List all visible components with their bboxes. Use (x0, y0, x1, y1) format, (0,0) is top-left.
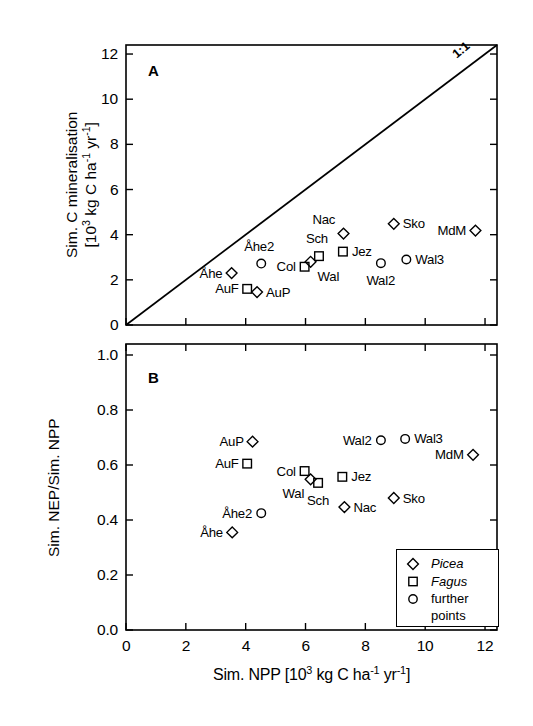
datapoint-label-a-0: Åhe (200, 266, 223, 281)
datapoint-marker-circle-a-11 (402, 255, 411, 264)
y-axis-title-panel-a: Sim. C mineralisation[103 kg C ha-1 yr-1… (63, 112, 101, 258)
datapoint-label-a-12: MdM (437, 223, 466, 238)
legend-marker-diamond (408, 559, 419, 570)
panel-b-letter: B (148, 369, 159, 386)
datapoint-marker-square-b-4 (300, 467, 309, 476)
y-ticklabel-panel-a: 4 (110, 226, 118, 244)
x-ticklabel: 8 (361, 637, 369, 655)
legend-box: PiceaFagusfurtherpoints (396, 549, 499, 627)
legend-marker-square (409, 577, 417, 585)
datapoint-marker-diamond-b-2 (247, 436, 258, 447)
datapoint-label-a-10: Sko (403, 216, 425, 231)
legend-label-points-line2: points (431, 608, 466, 623)
datapoint-label-b-8: Nac (353, 500, 376, 515)
legend-label-further: further (431, 591, 469, 606)
datapoint-marker-diamond-b-12 (468, 449, 479, 460)
datapoint-marker-circle-b-9 (377, 436, 386, 445)
legend-marker-circle (409, 595, 417, 603)
y-axis-title-panel-b: Sim. NEP/Sim. NPP (45, 418, 64, 557)
x-ticklabel: 0 (122, 637, 130, 655)
datapoint-label-a-3: AuP (266, 285, 290, 300)
datapoint-marker-circle-a-9 (377, 259, 386, 268)
y-ticklabel-panel-b: 0.0 (97, 621, 118, 639)
x-ticklabel: 4 (242, 637, 250, 655)
x-ticklabel: 6 (302, 637, 310, 655)
datapoint-label-a-5: Wal (318, 269, 339, 284)
y-ticklabel-panel-b: 0.2 (97, 566, 118, 584)
x-ticklabel: 12 (477, 637, 494, 655)
x-ticklabel: 2 (182, 637, 190, 655)
datapoint-marker-square-a-2 (243, 285, 252, 294)
datapoint-marker-diamond-b-8 (339, 502, 350, 513)
datapoint-label-b-2: AuP (220, 434, 244, 449)
datapoint-marker-diamond-b-0 (227, 527, 238, 538)
datapoint-label-b-9: Wal2 (343, 433, 372, 448)
x-ticklabel: 10 (417, 637, 434, 655)
legend-label-fagus: Fagus (431, 574, 467, 589)
datapoint-label-b-1: Åhe2 (222, 506, 252, 521)
y-ticklabel-panel-a: 6 (110, 181, 118, 199)
y-ticklabel-panel-b: 0.8 (97, 401, 118, 419)
y-ticklabel-panel-a: 0 (110, 316, 118, 334)
one-to-one-line (126, 45, 497, 325)
datapoint-marker-diamond-a-12 (470, 225, 481, 236)
datapoint-label-a-7: Jez (352, 244, 372, 259)
figure-root: ÅheÅhe2AuFAuPColWalSchJezNacWal2SkoWal3M… (0, 0, 533, 726)
datapoint-marker-diamond-a-0 (226, 268, 237, 279)
datapoint-marker-square-a-7 (339, 247, 348, 256)
datapoint-label-b-5: Wal (283, 486, 304, 501)
datapoint-marker-circle-b-11 (401, 435, 410, 444)
y-ticklabel-panel-b: 1.0 (97, 346, 118, 364)
datapoint-label-a-8: Nac (313, 212, 336, 227)
datapoint-marker-circle-a-1 (257, 259, 266, 268)
y-ticklabel-panel-a: 10 (101, 90, 118, 108)
y-ticklabel-panel-b: 0.6 (97, 456, 118, 474)
y-ticklabel-panel-a: 12 (101, 45, 118, 63)
datapoint-label-b-7: Jez (351, 469, 371, 484)
datapoint-label-a-6: Sch (306, 231, 328, 246)
x-axis-title-text: Sim. NPP [103 kg C ha-1 yr-1] (213, 666, 410, 683)
datapoint-label-b-6: Sch (307, 493, 329, 508)
datapoint-marker-circle-b-1 (257, 509, 266, 518)
legend-label-picea: Picea (431, 556, 464, 571)
datapoint-marker-diamond-a-3 (252, 287, 263, 298)
panel-a-letter: A (148, 62, 159, 79)
datapoint-label-b-0: Åhe (200, 525, 223, 540)
datapoint-label-b-11: Wal3 (414, 431, 443, 446)
y-ticklabel-panel-a: 2 (110, 271, 118, 289)
datapoint-marker-square-b-3 (243, 459, 252, 468)
datapoint-marker-square-a-6 (315, 252, 324, 261)
y-ticklabel-panel-a: 8 (110, 135, 118, 153)
x-axis-title: Sim. NPP [103 kg C ha-1 yr-1] (213, 666, 410, 684)
datapoint-label-b-3: AuF (215, 456, 238, 471)
datapoint-label-a-2: AuF (215, 281, 238, 296)
datapoint-label-b-10: Sko (403, 491, 425, 506)
datapoint-label-b-4: Col (277, 464, 296, 479)
datapoint-marker-diamond-b-10 (388, 493, 399, 504)
datapoint-label-a-4: Col (277, 259, 296, 274)
datapoint-label-a-9: Wal2 (366, 273, 395, 288)
datapoint-marker-diamond-a-8 (338, 228, 349, 239)
y-ticklabel-panel-b: 0.4 (97, 511, 118, 529)
datapoint-label-b-12: MdM (435, 447, 464, 462)
datapoint-marker-square-b-7 (338, 473, 347, 482)
datapoint-marker-diamond-a-10 (388, 218, 399, 229)
datapoint-label-a-1: Åhe2 (244, 239, 274, 254)
y-axis-title-panel-a-line2: [103 kg C ha-1 yr-1] (82, 112, 101, 258)
datapoint-label-a-11: Wal3 (415, 252, 444, 267)
